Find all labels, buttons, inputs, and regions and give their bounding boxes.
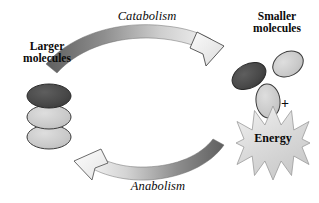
larger-molecules-group — [27, 84, 71, 149]
label-anabolism: Anabolism — [108, 180, 208, 194]
anabolism-arrow-shaft — [88, 139, 224, 180]
label-plus-sign: + — [277, 96, 293, 111]
label-larger-molecules: Larger molecules — [8, 40, 86, 65]
label-smaller-molecules-line1: Smaller — [240, 10, 314, 22]
molecule-large-top — [27, 84, 71, 108]
label-larger-molecules-line1: Larger — [8, 40, 86, 52]
metabolism-cycle-diagram: Larger molecules Smaller molecules Catab… — [0, 0, 319, 203]
smaller-molecules-group — [227, 46, 307, 119]
anabolism-arrow-head — [74, 149, 108, 180]
anabolism-arrow — [74, 139, 224, 180]
label-catabolism: Catabolism — [97, 10, 197, 24]
label-smaller-molecules-line2: molecules — [240, 22, 314, 34]
label-energy: Energy — [243, 132, 303, 145]
label-larger-molecules-line2: molecules — [8, 52, 86, 64]
molecule-small-light-a — [268, 46, 308, 82]
molecule-large-middle — [27, 105, 71, 129]
label-smaller-molecules: Smaller molecules — [240, 10, 314, 35]
catabolism-arrow-head — [190, 32, 224, 66]
